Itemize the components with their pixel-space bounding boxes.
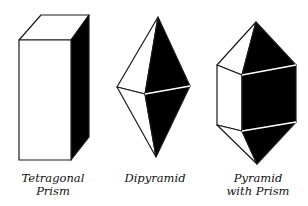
dipyramid-shape: [117, 17, 190, 157]
label-line: Dipyramid: [110, 172, 200, 185]
pyramid-with-prism-shape: [217, 22, 296, 164]
pyramid-with-prism-label: Pyramid with Prism: [213, 172, 303, 198]
dipyramid-label: Dipyramid: [110, 172, 200, 185]
tetragonal-prism-label: Tetragonal Prism: [8, 172, 98, 198]
label-line: Prism: [8, 185, 98, 198]
tetragonal-prism-shape: [19, 15, 89, 160]
label-line: with Prism: [213, 185, 303, 198]
